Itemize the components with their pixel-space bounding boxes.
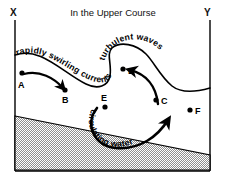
point-dot-e (102, 104, 107, 109)
river-upper-course-diagram: rapidly swirling currents turbulent wave… (0, 0, 226, 176)
point-dot-c (153, 97, 158, 102)
diagram-canvas: rapidly swirling currents turbulent wave… (0, 0, 226, 176)
corner-label-x: X (10, 7, 17, 18)
point-dot-d (120, 66, 125, 71)
point-label-e: E (101, 93, 107, 103)
flow-arrow-a-to-b (24, 73, 63, 88)
point-dot-b (62, 87, 67, 92)
point-label-f: F (195, 106, 201, 116)
point-dot-f (187, 107, 192, 112)
label-rapidly-swirling-currents: rapidly swirling currents (14, 45, 113, 85)
figure-title: In the Upper Course (70, 7, 156, 18)
point-label-d: D (128, 66, 135, 76)
corner-label-y: Y (204, 7, 211, 18)
point-label-a: A (18, 80, 25, 90)
label-turbulent-waves: turbulent waves (97, 31, 166, 61)
point-label-c: C (161, 96, 168, 106)
point-dot-a (19, 70, 24, 75)
point-label-b: B (62, 95, 69, 105)
